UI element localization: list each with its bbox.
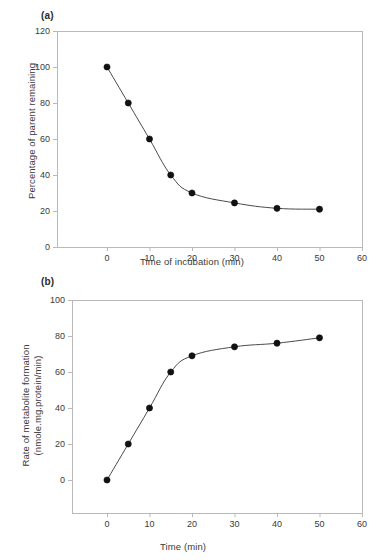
y-axis-title-b: Rate of metabolite formation (nmole.mg.p… — [20, 298, 44, 513]
data-point — [168, 369, 174, 375]
data-point — [168, 172, 174, 178]
data-point — [316, 206, 322, 212]
x-tick-label: 0 — [104, 253, 109, 263]
x-tick-label: 60 — [357, 519, 367, 529]
data-line — [107, 338, 320, 480]
data-point — [146, 405, 152, 411]
data-point — [104, 64, 110, 70]
x-tick-label: 40 — [272, 519, 282, 529]
y-tick-label: 60 — [55, 367, 65, 377]
figure-container: (a) 0204060801001200102030405060 Percent… — [0, 0, 377, 560]
x-axis-title-a: Time of incubation (min) — [140, 256, 244, 267]
chart-panel-b: (b) 0204060801000102030405060 Rate of me… — [0, 268, 377, 560]
data-point — [316, 335, 322, 341]
x-tick-label: 0 — [104, 519, 109, 529]
y-axis-title-b-line1: Rate of metabolite formation — [20, 298, 32, 513]
x-tick-label: 50 — [314, 519, 324, 529]
x-tick-label: 60 — [357, 253, 367, 263]
y-tick-label: 20 — [40, 206, 50, 216]
x-tick-label: 10 — [144, 519, 154, 529]
y-tick-label: 40 — [40, 170, 50, 180]
y-tick-label: 80 — [55, 331, 65, 341]
plot-frame — [73, 301, 363, 514]
data-point — [125, 441, 131, 447]
plot-area-b: 0204060801000102030405060 — [0, 268, 377, 560]
plot-frame — [58, 32, 363, 248]
y-tick-label: 120 — [35, 26, 50, 36]
y-tick-label: 40 — [55, 403, 65, 413]
y-tick-label: 80 — [40, 98, 50, 108]
chart-panel-a: (a) 0204060801001200102030405060 Percent… — [0, 0, 377, 268]
data-point — [189, 190, 195, 196]
plot-area-a: 0204060801001200102030405060 — [0, 0, 377, 268]
data-point — [146, 136, 152, 142]
data-point — [104, 477, 110, 483]
x-tick-label: 30 — [229, 519, 239, 529]
data-point — [125, 100, 131, 106]
y-tick-label: 20 — [55, 439, 65, 449]
y-tick-label: 100 — [50, 295, 65, 305]
data-line — [107, 67, 320, 209]
x-axis-title-b: Time (min) — [160, 541, 206, 552]
data-point — [189, 353, 195, 359]
y-axis-title-b-line2: (nmole.mg.protein/min) — [32, 298, 44, 513]
y-axis-title-a: Percentage of parent remaining — [26, 23, 37, 239]
data-point — [231, 200, 237, 206]
data-point — [274, 205, 280, 211]
x-tick-label: 50 — [314, 253, 324, 263]
x-tick-label: 20 — [187, 519, 197, 529]
y-tick-label: 0 — [60, 475, 65, 485]
data-point — [231, 344, 237, 350]
y-tick-label: 60 — [40, 134, 50, 144]
data-point — [274, 340, 280, 346]
y-tick-label: 100 — [35, 62, 50, 72]
x-tick-label: 40 — [272, 253, 282, 263]
y-tick-label: 0 — [45, 242, 50, 252]
